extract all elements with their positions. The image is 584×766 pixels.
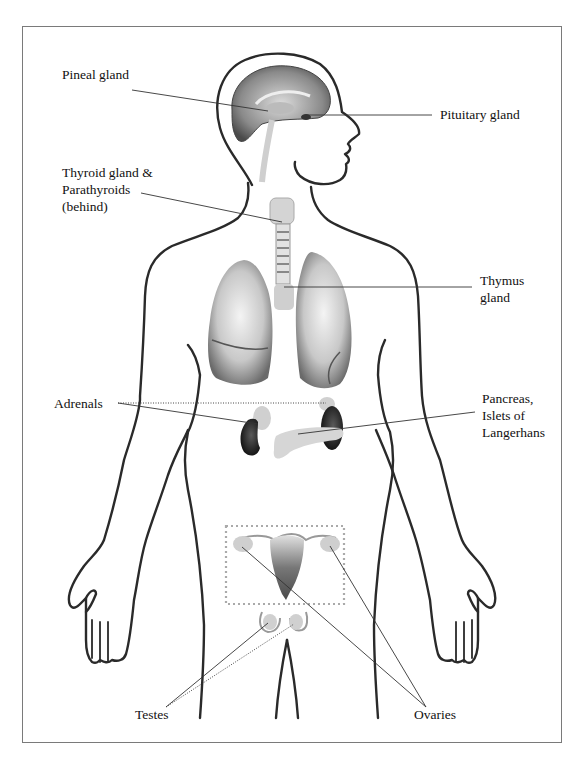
inner-leg-right [287, 640, 298, 718]
label-thymus-gland: Thymus gland [480, 272, 524, 306]
label-adrenals: Adrenals [54, 395, 103, 412]
thyroid-trachea [270, 198, 294, 310]
left-hand-fingers [92, 620, 108, 662]
thyroid-line-2: Parathyroids [62, 181, 153, 198]
thymus-gland [274, 284, 294, 310]
body-outline [69, 54, 495, 718]
label-pituitary-gland: Pituitary gland [440, 106, 520, 123]
thyroid-line-3: (behind) [62, 198, 153, 215]
left-testis [263, 614, 277, 630]
label-ovaries: Ovaries [414, 706, 456, 723]
pancreas-line-1: Pancreas, [482, 390, 545, 407]
testes-leader-2 [166, 624, 294, 707]
female-reproductive [226, 526, 344, 604]
uterus [270, 536, 304, 601]
inner-leg-left [276, 640, 287, 718]
label-thyroid-parathyroids: Thyroid gland & Parathyroids (behind) [62, 164, 153, 215]
torso-right-outline [374, 340, 393, 718]
testes-leader-1 [166, 623, 268, 707]
right-testis [289, 614, 303, 630]
right-hand-fingers [456, 620, 472, 662]
male-reproductive [260, 612, 307, 632]
pancreas-line-2: Islets of [482, 407, 545, 424]
thyroid-leader [141, 193, 282, 222]
thymus-line-2: gland [480, 289, 524, 306]
adrenal-leader-left [118, 403, 258, 424]
torso-left-outline [185, 345, 204, 718]
abdominal-organs [241, 397, 344, 459]
label-testes: Testes [135, 706, 169, 723]
thyroid-line-1: Thyroid gland & [62, 164, 153, 181]
pancreas-line-3: Langerhans [482, 424, 545, 441]
label-pineal-gland: Pineal gland [62, 66, 129, 83]
left-ovary [233, 536, 253, 552]
right-thumb [468, 591, 478, 612]
thymus-line-1: Thymus [480, 272, 524, 289]
brain [232, 66, 331, 182]
left-lung [208, 260, 273, 385]
right-lung [296, 252, 352, 388]
right-ovary [320, 536, 340, 552]
left-thumb [86, 591, 96, 612]
label-pancreas-islets: Pancreas, Islets of Langerhans [482, 390, 545, 441]
